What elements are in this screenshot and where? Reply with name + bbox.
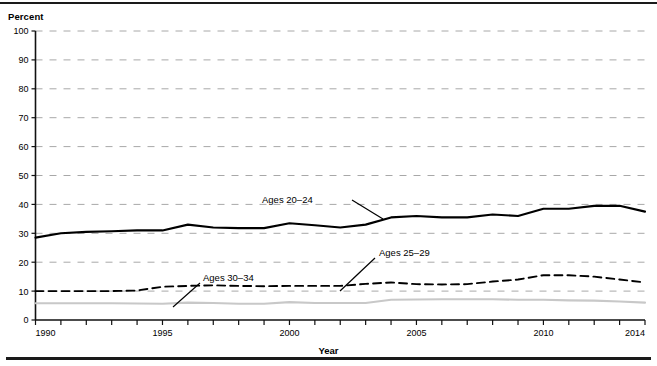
x-axis-title: Year: [0, 345, 657, 356]
x-tick-label-1990: 1990: [36, 328, 56, 338]
bottom-divider-rule: [6, 357, 651, 360]
y-tick-label-60: 60: [18, 142, 28, 152]
y-tick-label-80: 80: [18, 84, 28, 94]
y-tick-label-10: 10: [18, 287, 28, 297]
y-tick-label-20: 20: [18, 258, 28, 268]
series-annotations: Ages 20–24Ages 25–29Ages 30–34: [173, 194, 430, 307]
y-tick-label-0: 0: [23, 315, 28, 325]
y-axis-ticks: 0102030405060708090100: [13, 26, 35, 325]
ages-30-34-callout-label: Ages 30–34: [203, 272, 254, 283]
y-tick-label-90: 90: [18, 55, 28, 65]
ages-25-29-callout-label: Ages 25–29: [379, 247, 430, 258]
y-tick-label-30: 30: [18, 229, 28, 239]
x-tick-label-2000: 2000: [279, 328, 299, 338]
y-tick-label-50: 50: [18, 171, 28, 181]
y-tick-label-100: 100: [13, 26, 28, 36]
y-tick-label-70: 70: [18, 113, 28, 123]
ages-25-29-callout-leader-line: [340, 258, 375, 291]
figure-container: Figure 1. Percentage of people living in…: [0, 0, 657, 366]
gridlines: [36, 31, 646, 291]
series-line-ages-25-29: [36, 275, 646, 291]
x-tick-label-2014: 2014: [625, 328, 645, 338]
x-tick-label-2005: 2005: [406, 328, 426, 338]
ages-20-24-callout-leader-line: [352, 200, 383, 219]
x-tick-label-2010: 2010: [533, 328, 553, 338]
x-tick-label-1995: 1995: [152, 328, 172, 338]
data-series-group: [36, 206, 646, 304]
x-axis-ticks: 199019952000200520102014: [36, 320, 646, 338]
series-line-ages-30-34: [36, 299, 646, 304]
ages-20-24-callout-label: Ages 20–24: [262, 194, 313, 205]
y-tick-label-40: 40: [18, 200, 28, 210]
line-chart-plot: 0102030405060708090100199019952000200520…: [0, 0, 657, 366]
